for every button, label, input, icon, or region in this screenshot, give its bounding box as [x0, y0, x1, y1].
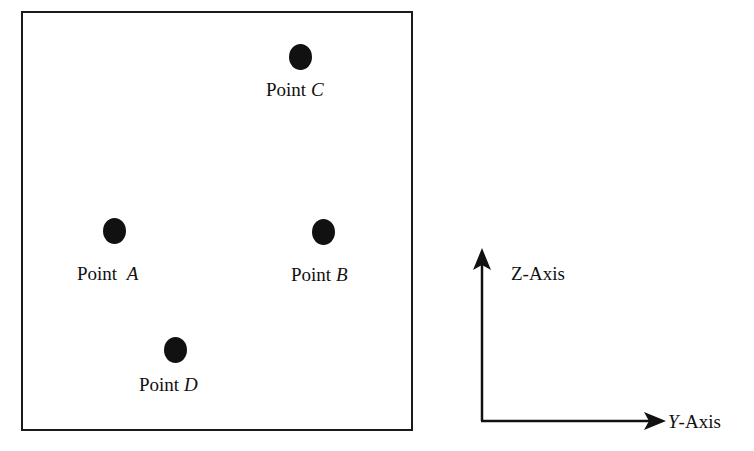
- axes-graphic: [0, 0, 754, 451]
- z-axis-label: Z-Axis: [511, 264, 565, 283]
- y-axis-label: Y-Axis: [668, 412, 721, 431]
